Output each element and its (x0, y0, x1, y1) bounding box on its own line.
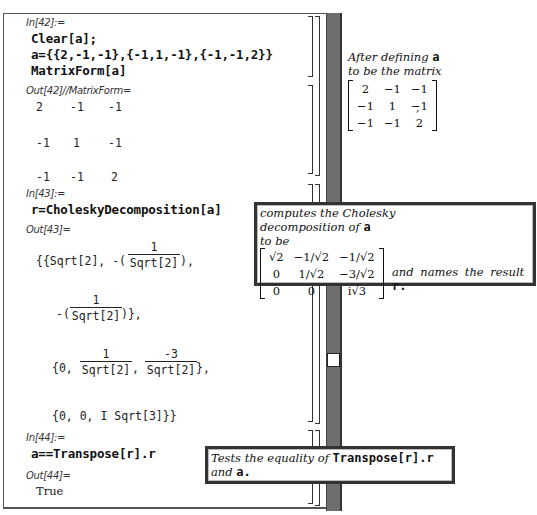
matrix-cell: -1 (36, 136, 50, 150)
output-text: ), (180, 254, 194, 268)
in-label-42: In[42]:= (26, 17, 65, 28)
out-label-44: Out[44]= (26, 470, 71, 481)
fraction: 1 Sqrt[2] (70, 293, 122, 323)
matrix-cell: 1 (73, 136, 80, 150)
fraction: 1 Sqrt[2] (128, 240, 180, 270)
matrix-cell: -1 (70, 100, 84, 114)
matrix-cell: 2 (36, 100, 43, 114)
annotation-text: computes the Cholesky decomposition of a… (260, 206, 396, 248)
denominator: Sqrt[2] (70, 307, 122, 323)
input-line[interactable]: a={{2,-1,-1},{-1,1,-1},{-1,-1,2}} (31, 47, 273, 62)
denominator: Sqrt[2] (80, 361, 132, 377)
annotation-tail: and names the result r. (392, 265, 533, 293)
matrix-cell: 2 (111, 170, 118, 184)
annotation-matrix-definition: After defining a to be the matrix (348, 50, 442, 78)
input-cell-bracket[interactable] (308, 16, 313, 77)
output-text: {0, 0, I Sqrt[3]}} (52, 409, 177, 423)
output-text: {{Sqrt[2], -( (36, 254, 126, 268)
scrollbar-thumb[interactable] (327, 353, 340, 367)
out-label-42: Out[42]//MatrixForm= (26, 85, 131, 96)
annotation-equality-box: Tests the equality of Transpose[r].r and… (205, 446, 455, 484)
matrix-cell: -1 (108, 100, 122, 114)
output-cell-bracket[interactable] (308, 85, 313, 174)
output-text: }, (196, 361, 210, 375)
annotation-text: Tests the equality of Transpose[r].r and… (211, 451, 434, 479)
numerator: -3 (145, 347, 197, 361)
group-cell-bracket[interactable] (315, 16, 320, 176)
fraction: 1 Sqrt[2] (80, 347, 132, 377)
input-line[interactable]: r=CholeskyDecomposition[a] (31, 202, 221, 217)
cholesky-matrix-display: √2−1/√2−1/√2 01/√2−3/√2 00i√3 (260, 248, 384, 299)
matrix-display: 2−1−1 −11−1 −1−12 (348, 80, 437, 131)
output-text: {0, (52, 361, 73, 375)
matrix-cell: -1 (108, 136, 122, 150)
in-label-43: In[43]:= (26, 188, 65, 199)
matrix-cell: -1 (70, 170, 84, 184)
input-line[interactable]: a==Transpose[r].r (31, 446, 156, 461)
denominator: Sqrt[2] (145, 361, 197, 377)
fraction: -3 Sqrt[2] (145, 347, 197, 377)
in-label-44: In[44]:= (26, 432, 65, 443)
input-line[interactable]: Clear[a]; (31, 31, 97, 46)
annotation-cholesky-box: computes the Cholesky decomposition of a… (254, 202, 536, 286)
output-text: , (132, 361, 139, 375)
output-text: True (36, 484, 63, 498)
output-text: -( (56, 307, 70, 321)
output-text: )}, (121, 307, 142, 321)
trailing-comma: , (416, 100, 420, 114)
matrix-cell: -1 (36, 170, 50, 184)
denominator: Sqrt[2] (128, 254, 180, 270)
numerator: 1 (70, 293, 122, 307)
numerator: 1 (80, 347, 132, 361)
out-label-43: Out[43]= (26, 224, 71, 235)
numerator: 1 (128, 240, 180, 254)
input-line[interactable]: MatrixForm[a] (31, 63, 126, 78)
